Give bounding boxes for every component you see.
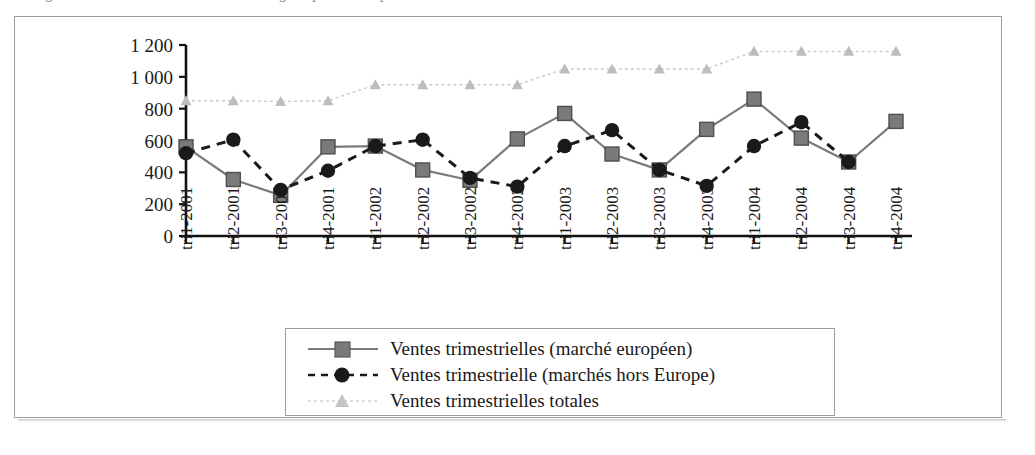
data-point-marker [749, 46, 760, 56]
legend-swatch-square-icon [304, 338, 382, 360]
data-point-marker [510, 132, 524, 146]
y-tick-label: 400 [145, 162, 174, 183]
legend-item-total[interactable]: Ventes trimestrielles totales [286, 388, 834, 414]
series-line [186, 51, 896, 101]
y-tick-label: 1 000 [130, 67, 173, 88]
legend-swatch-circle-icon [304, 364, 382, 386]
x-tick-label: tri4-2003 [698, 187, 717, 250]
legend-label-outside-europe: Ventes trimestrielle (marchés hors Europ… [390, 364, 715, 386]
data-point-marker [416, 163, 430, 177]
data-point-marker [321, 164, 335, 178]
data-point-marker [179, 146, 193, 160]
data-point-marker [559, 63, 570, 73]
data-point-marker [558, 106, 572, 120]
y-tick-label: 200 [145, 194, 174, 215]
legend-label-total: Ventes trimestrielles totales [390, 390, 599, 412]
x-tick-label: tri2-2004 [792, 186, 811, 250]
y-tick-label: 600 [145, 131, 174, 152]
data-point-marker [181, 95, 192, 105]
x-tick-label: tri4-2002 [508, 187, 527, 250]
legend-label-european: Ventes trimestrielles (marché européen) [390, 338, 692, 360]
data-point-marker [226, 133, 240, 147]
data-point-marker [652, 163, 666, 177]
data-point-marker [321, 140, 335, 154]
data-point-marker [370, 79, 381, 89]
data-point-marker [226, 172, 240, 186]
legend-item-outside-europe[interactable]: Ventes trimestrielle (marchés hors Europ… [286, 362, 834, 388]
data-point-marker [368, 139, 382, 153]
legend-item-european[interactable]: Ventes trimestrielles (marché européen) [286, 336, 834, 362]
x-tick-label: tri3-2004 [840, 186, 859, 250]
series-line [186, 99, 896, 195]
x-tick-label: tri3-2002 [461, 187, 480, 250]
x-tick-label: tri2-2001 [224, 187, 243, 250]
y-tick-label: 800 [145, 99, 174, 120]
x-tick-labels: tri1-2001tri2-2001tri3-2001tri4-2001tri1… [177, 186, 906, 250]
x-tick-label: tri4-2004 [887, 186, 906, 250]
series-layer [179, 46, 903, 203]
x-tick-label: tri1-2003 [556, 187, 575, 250]
data-point-marker [605, 147, 619, 161]
x-tick-label: tri1-2002 [366, 187, 385, 250]
legend-swatch-triangle-icon [304, 390, 382, 412]
y-tick-label: 0 [164, 226, 174, 247]
chart-legend: Ventes trimestrielles (marché européen) … [285, 328, 835, 416]
x-tick-label: tri4-2001 [319, 187, 338, 250]
x-tick-label: tri3-2003 [650, 187, 669, 250]
data-point-marker [463, 171, 477, 185]
data-point-marker [557, 139, 571, 153]
data-point-marker [605, 123, 619, 137]
x-tick-label: tri2-2002 [414, 187, 433, 250]
data-point-marker [794, 131, 808, 145]
x-tick-label: tri3-2001 [272, 187, 291, 250]
data-point-marker [841, 155, 855, 169]
x-tick-label: tri1-2001 [177, 187, 196, 250]
data-point-marker [747, 139, 761, 153]
data-point-marker [889, 114, 903, 128]
x-tick-label: tri2-2003 [603, 187, 622, 250]
y-tick-label: 1 200 [130, 35, 173, 56]
x-tick-label: tri1-2004 [745, 186, 764, 250]
data-point-marker [415, 133, 429, 147]
data-point-marker [794, 115, 808, 129]
data-point-marker [700, 122, 714, 136]
data-point-marker [747, 92, 761, 106]
